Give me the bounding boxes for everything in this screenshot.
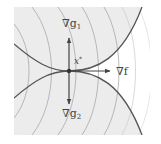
label-grad-f: ∇f <box>116 65 129 78</box>
constraint-gradient-diagram: ∇g1 ∇g2 ∇f x* <box>0 0 161 144</box>
optimal-point <box>67 69 71 73</box>
